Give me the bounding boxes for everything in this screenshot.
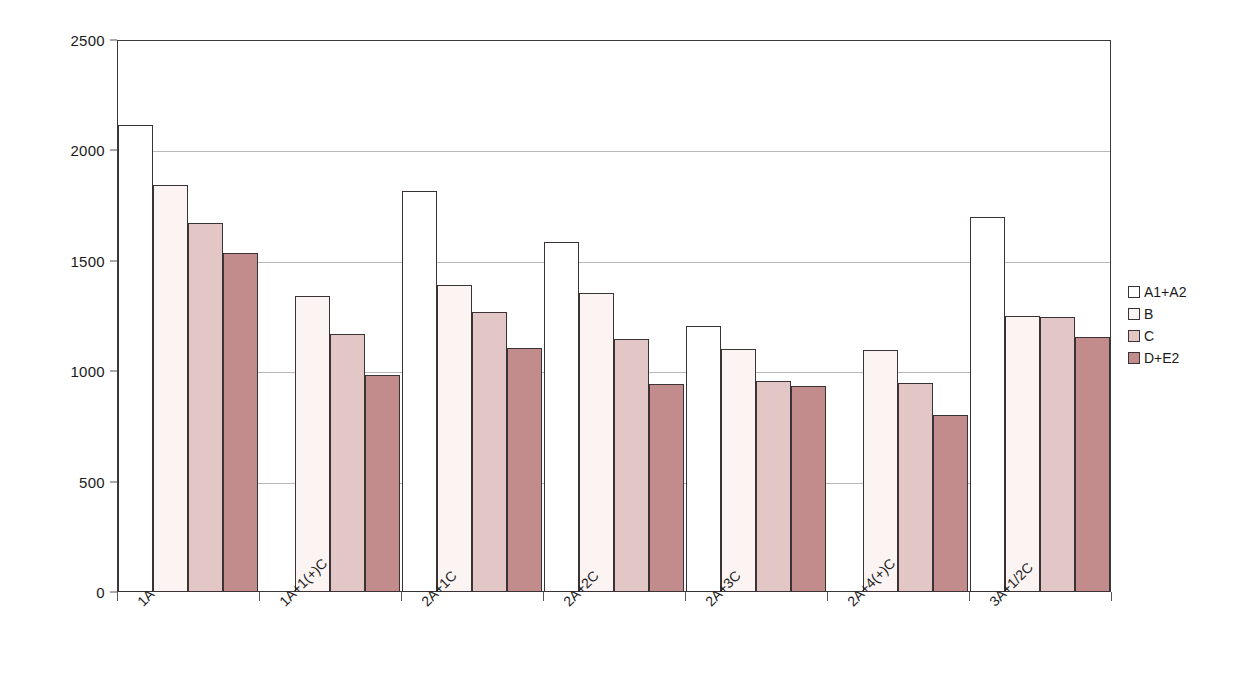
y-axis-tick-mark [110,260,117,261]
bar-a1-a2 [402,191,437,592]
bar-b [153,185,188,592]
x-axis-tick-mark [401,592,402,601]
legend-label: A1+A2 [1144,284,1186,300]
bar-group [827,40,969,592]
y-axis-tick-label: 1000 [20,363,105,380]
bar-b [579,293,614,592]
legend-label: C [1144,328,1154,344]
y-axis-tick-label: 2500 [20,32,105,49]
bar-b [1005,316,1040,592]
bar-b [295,296,330,592]
x-axis-tick-mark [543,592,544,601]
y-axis-tick-label: 500 [20,473,105,490]
bar-d-e2 [365,375,400,592]
x-axis-tick-mark [827,592,828,601]
bar-a1-a2 [544,242,579,592]
bar-chart: 05001000150020002500 1A1A+1(+)C2A+1C2A+2… [0,0,1251,693]
legend-label: B [1144,306,1153,322]
legend-swatch-icon [1128,308,1140,320]
bar-d-e2 [791,386,826,592]
bar-d-e2 [507,348,542,592]
y-axis-tick-label: 0 [20,584,105,601]
legend: A1+A2BCD+E2 [1128,281,1240,369]
legend-item[interactable]: B [1128,303,1240,325]
bar-c [1040,317,1075,592]
bar-group [685,40,827,592]
x-axis-tick-mark [685,592,686,601]
bar-d-e2 [649,384,684,592]
bar-group [117,40,259,592]
bar-d-e2 [933,415,968,592]
legend-swatch-icon [1128,330,1140,342]
x-axis-tick-mark [1111,592,1112,601]
y-axis-tick-mark [110,481,117,482]
bar-d-e2 [223,253,258,592]
y-axis-tick-label: 1500 [20,252,105,269]
bar-c [472,312,507,592]
bar-c [614,339,649,592]
bar-c [756,381,791,592]
bar-d-e2 [1075,337,1110,592]
x-axis-tick-mark [259,592,260,601]
bar-group [543,40,685,592]
bar-c [188,223,223,592]
y-axis-tick-mark [110,592,117,593]
bar-group [259,40,401,592]
y-axis-tick-mark [110,40,117,41]
legend-swatch-icon [1128,286,1140,298]
bar-group [401,40,543,592]
legend-item[interactable]: A1+A2 [1128,281,1240,303]
bar-a1-a2 [686,326,721,592]
y-axis-tick-mark [110,150,117,151]
bar-b [721,349,756,592]
y-axis-tick-label: 2000 [20,142,105,159]
legend-label: D+E2 [1144,350,1179,366]
legend-swatch-icon [1128,352,1140,364]
bar-groups [117,40,1111,592]
bar-group [969,40,1111,592]
bar-c [330,334,365,592]
bar-b [437,285,472,592]
bar-a1-a2 [118,125,153,592]
bar-a1-a2 [970,217,1005,592]
legend-item[interactable]: D+E2 [1128,347,1240,369]
y-axis-tick-mark [110,371,117,372]
legend-item[interactable]: C [1128,325,1240,347]
bar-c [898,383,933,592]
bar-b [863,350,898,592]
x-axis-tick-mark [969,592,970,601]
x-axis-tick-mark [117,592,118,601]
